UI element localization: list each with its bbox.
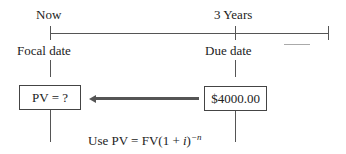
pv-box: PV = ? — [19, 85, 81, 110]
left-connector-bottom — [50, 110, 51, 142]
decorative-dash — [284, 44, 310, 45]
formula-exponent: −n — [191, 132, 202, 142]
due-date-label: Due date — [205, 43, 252, 58]
start-tick — [50, 26, 51, 40]
focal-date-label: Focal date — [17, 43, 71, 58]
mid-tick — [235, 26, 236, 40]
fv-box: $4000.00 — [204, 86, 267, 111]
fv-box-text: $4000.00 — [211, 91, 260, 107]
right-connector-bottom — [235, 111, 236, 142]
left-connector-top — [50, 60, 51, 77]
pv-box-text: PV = ? — [32, 90, 68, 106]
formula-text: Use PV = FV(1 + i)−n — [88, 130, 202, 148]
arrow-shaft — [95, 97, 199, 100]
now-label: Now — [36, 7, 61, 22]
right-connector-top — [235, 60, 236, 77]
timeline-axis — [50, 33, 328, 34]
three-years-label: 3 Years — [214, 7, 252, 22]
end-tick — [328, 26, 329, 40]
